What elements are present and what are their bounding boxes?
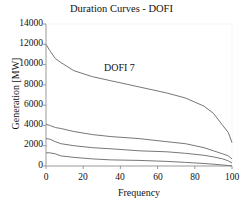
- series-line: [46, 44, 232, 142]
- series-line: [46, 153, 232, 166]
- series-line: [46, 124, 232, 158]
- plot-area: [0, 0, 243, 207]
- series-line: [46, 139, 232, 163]
